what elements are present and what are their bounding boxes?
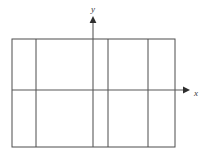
x-axis-arrowhead [183, 87, 190, 94]
x-axis-label: x [193, 88, 198, 98]
geometry-figure: x y [0, 0, 205, 157]
figure-canvas: x y [0, 0, 205, 157]
y-axis-arrowhead [90, 16, 97, 23]
y-axis-label: y [90, 4, 95, 14]
